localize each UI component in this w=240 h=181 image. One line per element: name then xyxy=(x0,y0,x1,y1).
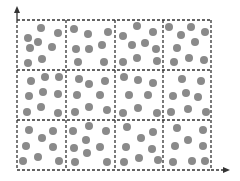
scatter-points xyxy=(19,22,210,166)
data-point xyxy=(177,31,185,39)
grid-diagram xyxy=(0,0,240,181)
data-point xyxy=(125,91,133,99)
data-point xyxy=(122,143,130,151)
data-point xyxy=(133,22,141,30)
data-point xyxy=(85,122,93,130)
data-point xyxy=(201,157,209,165)
data-point xyxy=(137,134,145,142)
data-point xyxy=(70,25,78,33)
data-point xyxy=(101,77,109,85)
data-point xyxy=(103,158,111,166)
data-point xyxy=(167,108,175,116)
data-point xyxy=(55,157,63,165)
data-point xyxy=(98,41,106,49)
data-point xyxy=(141,39,149,47)
data-point xyxy=(170,58,178,66)
data-point xyxy=(119,32,127,40)
data-point xyxy=(171,142,179,150)
x-axis-arrow-icon xyxy=(223,167,230,173)
data-point xyxy=(120,158,128,166)
data-point xyxy=(153,57,161,65)
data-point xyxy=(55,73,63,81)
data-point xyxy=(82,136,90,144)
data-point xyxy=(202,108,210,116)
data-point xyxy=(34,153,42,161)
data-point xyxy=(41,73,49,81)
data-point xyxy=(119,58,127,66)
data-point xyxy=(38,55,46,63)
data-point xyxy=(149,128,157,136)
data-point xyxy=(54,90,62,98)
data-point xyxy=(22,142,30,150)
data-point xyxy=(83,149,91,157)
data-point xyxy=(169,158,177,166)
axes xyxy=(14,6,230,173)
data-point xyxy=(199,142,207,150)
data-point xyxy=(100,58,108,66)
data-point xyxy=(173,124,181,132)
data-point xyxy=(70,144,78,152)
data-point xyxy=(194,93,202,101)
data-point xyxy=(72,45,80,53)
data-point xyxy=(169,92,177,100)
data-point xyxy=(49,143,57,151)
data-point xyxy=(48,43,56,51)
data-point xyxy=(74,58,82,66)
data-point xyxy=(27,77,35,85)
data-point xyxy=(85,103,93,111)
data-point xyxy=(165,23,173,31)
data-point xyxy=(184,105,192,113)
data-point xyxy=(188,157,196,165)
data-point xyxy=(197,77,205,85)
data-point xyxy=(69,127,77,135)
data-point xyxy=(37,103,45,111)
data-point xyxy=(104,28,112,36)
data-point xyxy=(102,127,110,135)
data-point xyxy=(26,44,34,52)
data-point xyxy=(128,41,136,49)
data-point xyxy=(54,29,62,37)
data-point xyxy=(37,24,45,32)
data-point xyxy=(191,38,199,46)
data-point xyxy=(71,158,79,166)
data-point xyxy=(49,127,57,135)
data-point xyxy=(34,38,42,46)
data-point xyxy=(85,45,93,53)
data-point xyxy=(38,134,46,142)
data-point xyxy=(73,91,81,99)
data-point xyxy=(144,91,152,99)
data-point xyxy=(84,30,92,38)
data-point xyxy=(25,92,33,100)
data-point xyxy=(71,108,79,116)
data-point xyxy=(134,104,142,112)
data-point xyxy=(154,156,162,164)
data-point xyxy=(96,143,104,151)
data-point xyxy=(182,89,190,97)
data-point xyxy=(178,75,186,83)
dashed-grid xyxy=(17,20,211,170)
data-point xyxy=(200,56,208,64)
y-axis-arrow-icon xyxy=(14,6,20,13)
data-point xyxy=(133,54,141,62)
data-point xyxy=(96,91,104,99)
data-point xyxy=(75,75,83,83)
data-point xyxy=(149,28,157,36)
data-point xyxy=(119,109,127,117)
data-point xyxy=(54,109,62,117)
data-point xyxy=(123,123,131,131)
data-point xyxy=(153,109,161,117)
data-point xyxy=(120,73,128,81)
data-point xyxy=(135,154,143,162)
data-point xyxy=(24,34,32,42)
data-point xyxy=(187,23,195,31)
data-point xyxy=(103,106,111,114)
data-point xyxy=(152,45,160,53)
data-point xyxy=(201,28,209,36)
data-point xyxy=(184,136,192,144)
data-point xyxy=(185,54,193,62)
data-point xyxy=(134,76,142,84)
data-point xyxy=(173,44,181,52)
data-point xyxy=(25,126,33,134)
data-point xyxy=(39,88,47,96)
data-point xyxy=(199,126,207,134)
